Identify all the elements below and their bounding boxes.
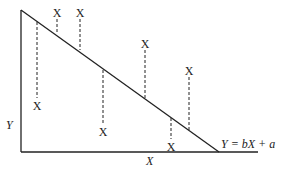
data-point-marker: X bbox=[141, 37, 150, 51]
data-point-marker: X bbox=[99, 125, 108, 139]
data-point-marker: X bbox=[53, 6, 62, 20]
y-axis-label: Y bbox=[6, 118, 14, 132]
data-points: XXXXXXX bbox=[33, 6, 194, 154]
regression-line bbox=[21, 10, 219, 152]
x-axis-label: X bbox=[145, 154, 154, 168]
regression-equation: Y = bX + a bbox=[221, 137, 275, 151]
data-point-marker: X bbox=[185, 64, 194, 78]
data-point-marker: X bbox=[167, 140, 176, 154]
data-point-marker: X bbox=[76, 6, 85, 20]
residual-lines bbox=[37, 19, 189, 139]
regression-diagram: XXXXXXX Y X Y = bX + a bbox=[0, 0, 285, 169]
data-point-marker: X bbox=[33, 99, 42, 113]
